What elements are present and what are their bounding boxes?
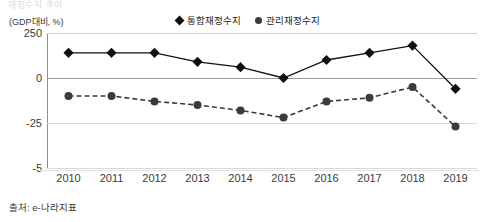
- x-tick-label-2018: 2018: [400, 172, 424, 184]
- x-tick-label-2010: 2010: [56, 172, 80, 184]
- data-point-관리재정수지-2010[interactable]: [65, 92, 73, 100]
- y-tick-label: -25: [26, 117, 42, 129]
- data-point-통합재정수지-2011[interactable]: [106, 48, 116, 58]
- x-tick-label-2013: 2013: [185, 172, 209, 184]
- chart-figure: 재정수지 추이 (GDP대비, %) 통합재정수지 관리재정수지 2500-25…: [0, 0, 485, 222]
- legend-label-gwanri: 관리재정수지: [266, 13, 320, 27]
- series-line-관리재정수지: [69, 87, 456, 127]
- diamond-marker-icon: [175, 15, 185, 25]
- y-tick-label: 250: [24, 27, 42, 39]
- x-tick-label-2014: 2014: [228, 172, 252, 184]
- x-axis-rule: [40, 170, 480, 171]
- chart-legend: 통합재정수지 관리재정수지: [176, 13, 320, 27]
- data-point-통합재정수지-2010[interactable]: [63, 48, 73, 58]
- series-line-통합재정수지: [69, 46, 456, 89]
- data-point-관리재정수지-2013[interactable]: [194, 101, 202, 109]
- data-point-관리재정수지-2016[interactable]: [323, 97, 331, 105]
- data-point-관리재정수지-2012[interactable]: [151, 97, 159, 105]
- data-point-통합재정수지-2017[interactable]: [364, 48, 374, 58]
- x-tick-label-2012: 2012: [142, 172, 166, 184]
- data-point-관리재정수지-2011[interactable]: [108, 92, 116, 100]
- legend-item-tonghap[interactable]: 통합재정수지: [176, 13, 241, 27]
- source-note: 출처: e-나라지표: [9, 200, 77, 214]
- y-tick-label: 0: [36, 72, 42, 84]
- x-tick-label-2015: 2015: [271, 172, 295, 184]
- data-point-통합재정수지-2015[interactable]: [278, 73, 288, 83]
- data-point-관리재정수지-2014[interactable]: [237, 106, 245, 114]
- x-tick-label-2019: 2019: [443, 172, 467, 184]
- data-point-통합재정수지-2013[interactable]: [192, 57, 202, 67]
- data-point-통합재정수지-2014[interactable]: [235, 62, 245, 72]
- circle-marker-icon: [255, 17, 262, 24]
- legend-label-tonghap: 통합재정수지: [187, 13, 241, 27]
- data-point-통합재정수지-2012[interactable]: [149, 48, 159, 58]
- data-point-관리재정수지-2018[interactable]: [409, 83, 417, 91]
- data-point-통합재정수지-2016[interactable]: [321, 55, 331, 65]
- x-tick-label-2017: 2017: [357, 172, 381, 184]
- x-tick-label-2016: 2016: [314, 172, 338, 184]
- data-point-관리재정수지-2019[interactable]: [452, 123, 460, 131]
- series-layer: [47, 33, 477, 168]
- x-tick-label-2011: 2011: [100, 172, 124, 184]
- cut-off-title: 재정수지 추이: [8, 0, 308, 9]
- y-tick-label: -5: [32, 162, 42, 174]
- plot-area: 2500-25-5: [47, 33, 477, 168]
- data-point-관리재정수지-2015[interactable]: [280, 114, 288, 122]
- data-point-관리재정수지-2017[interactable]: [366, 94, 374, 102]
- gridline--5: [47, 168, 477, 169]
- legend-item-gwanri[interactable]: 관리재정수지: [255, 13, 320, 27]
